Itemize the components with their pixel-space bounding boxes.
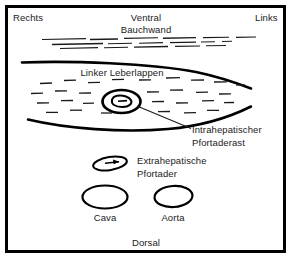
structure-label-vena-cava: Cava (94, 212, 117, 223)
structure-label-extrahepatic-vein-line2: Pfortader (137, 168, 177, 180)
structure-label-abdominal-wall: Bauchwand (121, 24, 172, 35)
structure-label-aorta: Aorta (161, 212, 184, 223)
structure-label-liver-lobe: Linker Leberlappen (80, 67, 163, 78)
extrahepatic-vein-ellipse (92, 154, 128, 172)
orientation-label-left: Links (255, 12, 278, 23)
vena-cava-vessel (83, 186, 128, 209)
structure-label-extrahepatic-vein-line1: Extrahepatische (137, 155, 207, 167)
intrahepatic-portal-branch-vessel (103, 90, 141, 113)
abdominal-wall-hatching (42, 37, 256, 49)
portal-branch-flow-marker (118, 101, 127, 102)
aorta-vessel (154, 185, 193, 209)
extrahepatic-portal-vein-vessel (92, 154, 128, 172)
orientation-label-dorsal: Dorsal (132, 237, 160, 248)
extrahepatic-vein-arrow-head (113, 160, 120, 165)
structure-label-intrahepatic-branch-line1: Intrahepatischer (192, 124, 262, 136)
orientation-label-right: Rechts (13, 12, 43, 23)
intrahepatic-label-leader-line (137, 106, 191, 129)
orientation-label-ventral: Ventral (131, 12, 161, 23)
diagram-canvas: Rechts Links Ventral Dorsal Bauchwand Li… (0, 0, 291, 258)
structure-label-intrahepatic-branch-line2: Pfortaderast (192, 137, 245, 149)
